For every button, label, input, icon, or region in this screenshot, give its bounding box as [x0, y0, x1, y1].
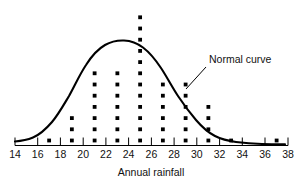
data-dot	[138, 94, 142, 98]
data-dot	[161, 116, 165, 120]
x-axis-tick-label-22: 22	[100, 148, 112, 160]
data-dot	[93, 94, 97, 98]
x-axis-tick-label-28: 28	[168, 148, 180, 160]
data-dot	[161, 105, 165, 109]
x-axis-tick-label-32: 32	[214, 148, 226, 160]
data-dot	[138, 15, 142, 19]
data-dot	[115, 116, 119, 120]
data-dot	[138, 105, 142, 109]
x-axis-tick-label-34: 34	[236, 148, 248, 160]
x-axis-tick-label-18: 18	[55, 148, 67, 160]
data-dot	[93, 127, 97, 131]
x-axis-tick-label-36: 36	[259, 148, 271, 160]
x-axis-tick-label-26: 26	[146, 148, 158, 160]
data-dot	[184, 139, 188, 143]
data-dot	[115, 127, 119, 131]
data-dot	[161, 94, 165, 98]
data-dot	[70, 139, 74, 143]
data-dot	[184, 83, 188, 87]
data-dot	[115, 94, 119, 98]
data-dot	[229, 139, 233, 143]
data-dot	[161, 139, 165, 143]
data-dot	[93, 116, 97, 120]
data-dot	[138, 49, 142, 53]
data-dot	[47, 139, 51, 143]
data-dot	[206, 116, 210, 120]
x-axis-tick-label-24: 24	[123, 148, 135, 160]
data-dot	[115, 139, 119, 143]
x-axis-tick-label-30: 30	[191, 148, 203, 160]
data-dot	[70, 127, 74, 131]
data-dot	[138, 127, 142, 131]
data-dot	[206, 127, 210, 131]
data-dot	[206, 105, 210, 109]
x-axis-tick-label-20: 20	[77, 148, 89, 160]
x-axis-tick-label-14: 14	[9, 148, 21, 160]
data-dot	[206, 139, 210, 143]
annotation-group: Normal curve	[186, 53, 272, 89]
data-dot	[115, 71, 119, 75]
x-axis-tick-label-16: 16	[32, 148, 44, 160]
data-dot	[161, 83, 165, 87]
data-dot	[138, 83, 142, 87]
data-dot	[93, 71, 97, 75]
data-dot	[138, 116, 142, 120]
normal-curve-annotation-label: Normal curve	[209, 53, 272, 65]
dot-plot-with-normal-curve: Normal curve 14 16 18 20 22 24 26	[0, 0, 304, 183]
data-dot	[93, 105, 97, 109]
x-axis-title: Annual rainfall	[118, 166, 185, 178]
data-dot	[184, 116, 188, 120]
x-axis-tick-label-38: 38	[282, 148, 294, 160]
data-dot	[115, 83, 119, 87]
data-dot	[138, 38, 142, 42]
chart-figure: Normal curve 14 16 18 20 22 24 26	[0, 0, 304, 183]
dot-plot-layer	[47, 15, 278, 142]
data-dot	[138, 27, 142, 31]
data-dot	[138, 139, 142, 143]
data-dot	[184, 127, 188, 131]
data-dot	[93, 83, 97, 87]
annotation-leader-line	[186, 67, 206, 89]
data-dot	[115, 105, 119, 109]
data-dot	[138, 60, 142, 64]
data-dot	[275, 139, 279, 143]
data-dot	[184, 94, 188, 98]
data-dot	[70, 116, 74, 120]
data-dot	[161, 127, 165, 131]
data-dot	[184, 105, 188, 109]
data-dot	[138, 71, 142, 75]
data-dot	[93, 139, 97, 143]
